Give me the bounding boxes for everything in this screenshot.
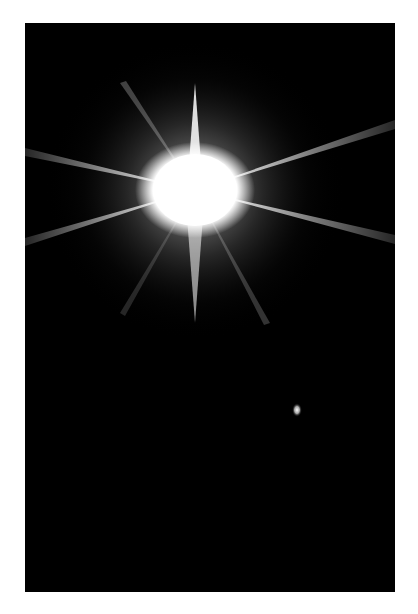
companion-star: [292, 403, 302, 417]
star-render: [25, 23, 395, 592]
star-center: [153, 154, 237, 226]
space-photo: [25, 23, 395, 592]
